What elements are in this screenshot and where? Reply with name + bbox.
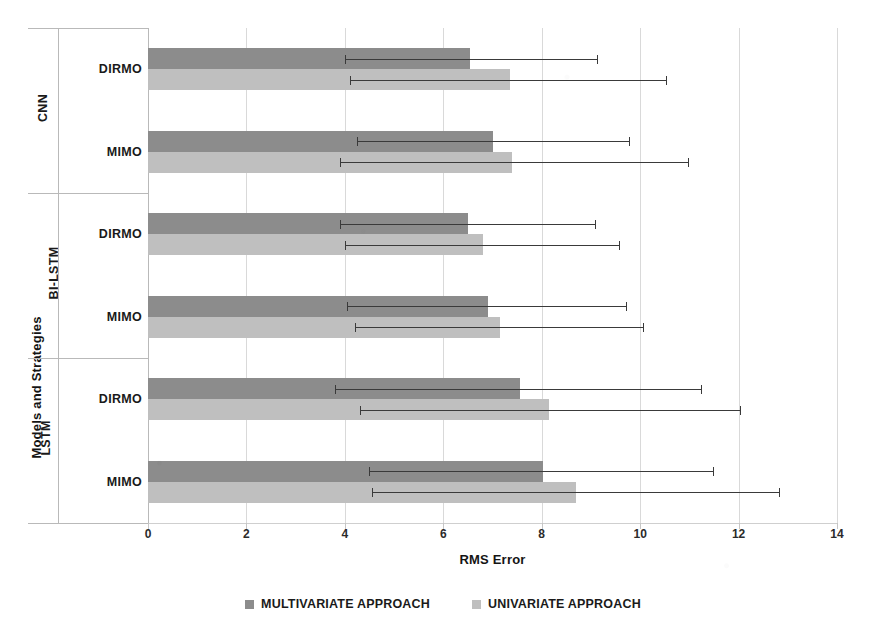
group-bracket [58,193,59,358]
error-bar-cap-high [740,406,741,415]
error-bar [372,492,780,493]
group-separator [28,523,148,524]
error-bar-cap-high [597,55,598,64]
error-bar-cap-low [357,137,358,146]
error-bar-cap-high [688,158,689,167]
x-axis-title: RMS Error [148,552,837,567]
category-label-mimo: MIMO [107,310,142,324]
category-label-dirmo: DIRMO [99,392,142,406]
gridline [246,28,247,523]
error-bar-cap-low [360,406,361,415]
error-bar-cap-low [345,55,346,64]
legend-label: UNIVARIATE APPROACH [488,597,641,611]
error-bar-cap-low [335,385,336,394]
error-bar-cap-high [595,220,596,229]
error-bar-cap-high [626,302,627,311]
group-separator [28,358,148,359]
error-bar [355,327,644,328]
group-label-cnn: CNN [28,101,58,115]
error-bar-cap-low [350,76,351,85]
x-tick-label: 12 [719,527,759,541]
group-bracket [58,358,59,523]
group-label-lstm: LSTM [28,431,58,445]
group-separator [28,193,148,194]
error-bar-cap-low [340,158,341,167]
error-bar-cap-low [355,323,356,332]
x-tick-label: 14 [817,527,857,541]
error-bar [340,224,596,225]
gridline [345,28,346,523]
category-axis-groups: CNNBI-LSTMLSTM [28,28,58,523]
error-bar-cap-high [701,385,702,394]
x-tick-label: 10 [620,527,660,541]
error-bar [357,141,630,142]
error-bar [350,80,667,81]
error-bar-cap-low [369,467,370,476]
gridline [443,28,444,523]
group-separator [28,28,148,29]
x-tick-label: 0 [128,527,168,541]
gridline [739,28,740,523]
legend-item[interactable]: UNIVARIATE APPROACH [472,597,641,611]
group-label-bi-lstm: BI-LSTM [28,266,58,280]
gridline [542,28,543,523]
legend-swatch-icon [472,600,481,609]
category-label-mimo: MIMO [107,145,142,159]
gridline [837,28,838,523]
plot-area [148,28,837,523]
error-bar [345,59,598,60]
category-label-dirmo: DIRMO [99,62,142,76]
legend-swatch-icon [245,600,254,609]
error-bar [340,162,689,163]
category-axis-strategies: DIRMOMIMODIRMOMIMODIRMOMIMO [58,28,148,523]
error-bar-cap-high [666,76,667,85]
category-label-mimo: MIMO [107,475,142,489]
error-bar-cap-low [372,488,373,497]
error-bar-cap-high [629,137,630,146]
y-axis-title-wrapper: Models and Strategies [8,180,28,340]
error-bar [369,471,714,472]
error-bar-cap-low [347,302,348,311]
error-bar-cap-low [340,220,341,229]
x-tick-label: 6 [423,527,463,541]
error-bar [347,306,627,307]
error-bar-cap-high [619,241,620,250]
legend-item[interactable]: MULTIVARIATE APPROACH [245,597,430,611]
legend-label: MULTIVARIATE APPROACH [261,597,430,611]
error-bar [360,410,741,411]
error-bar-cap-low [345,241,346,250]
bar-chart: Models and Strategies CNNBI-LSTMLSTM DIR… [0,0,886,643]
gridline [640,28,641,523]
error-bar-cap-high [779,488,780,497]
error-bar [335,389,702,390]
category-label-dirmo: DIRMO [99,227,142,241]
x-tick-label: 8 [522,527,562,541]
x-tick-label: 2 [226,527,266,541]
category-axis-baseline [148,523,837,524]
chart-legend: MULTIVARIATE APPROACHUNIVARIATE APPROACH [0,597,886,611]
error-bar [345,245,621,246]
error-bar-cap-high [643,323,644,332]
group-bracket [58,28,59,193]
x-tick-label: 4 [325,527,365,541]
error-bar-cap-high [713,467,714,476]
